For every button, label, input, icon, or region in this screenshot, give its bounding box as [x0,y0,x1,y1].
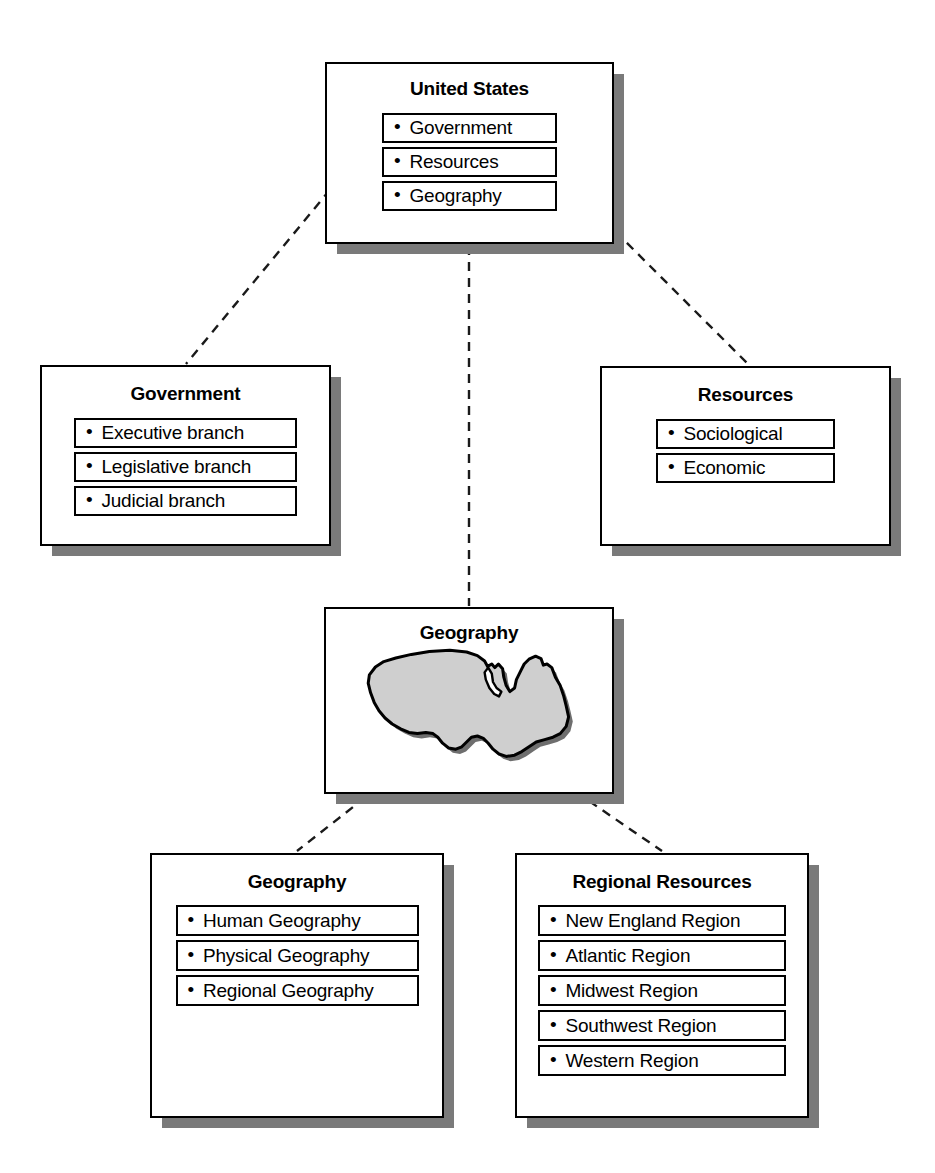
list-item[interactable]: • New England Region [538,905,786,936]
node-title-regional-resources: Regional Resources [517,872,807,893]
bullet-icon: • [188,945,194,964]
node-geography[interactable]: Geography • Human Geography • Physical G… [150,853,444,1118]
bullet-icon: • [668,457,674,476]
list-item[interactable]: • Southwest Region [538,1010,786,1041]
bullet-icon: • [550,1050,556,1069]
united-states-map-icon [349,646,589,772]
list-item-label: Atlantic Region [565,946,690,965]
node-title-united-states: United States [327,79,612,100]
node-title-resources: Resources [602,385,889,406]
list-item[interactable]: • Judicial branch [74,486,297,516]
list-item[interactable]: • Physical Geography [176,940,419,971]
list-item-label: Sociological [683,424,782,443]
list-item[interactable]: • Human Geography [176,905,419,936]
node-regional-resources[interactable]: Regional Resources • New England Region … [515,853,809,1118]
list-item-label: Judicial branch [101,491,225,510]
bullet-icon: • [550,980,556,999]
node-title-government: Government [42,384,329,405]
bullet-icon: • [550,910,556,929]
list-item[interactable]: • Midwest Region [538,975,786,1006]
list-item[interactable]: • Atlantic Region [538,940,786,971]
list-item-label: Western Region [565,1051,698,1070]
bullet-icon: • [668,423,674,442]
list-item[interactable]: • Sociological [656,419,835,449]
list-item-label: Geography [409,186,501,205]
bullet-icon: • [550,945,556,964]
list-item-label: Midwest Region [565,981,697,1000]
list-item-label: Government [409,118,512,137]
item-list-regional-resources: • New England Region • Atlantic Region •… [538,905,786,1076]
bullet-icon: • [394,185,400,204]
node-united-states[interactable]: United States • Government • Resources •… [325,62,614,244]
node-resources[interactable]: Resources • Sociological • Economic [600,366,891,546]
bullet-icon: • [550,1015,556,1034]
item-list-geography: • Human Geography • Physical Geography •… [176,905,419,1006]
list-item-label: Economic [683,458,765,477]
node-geography-map[interactable]: Geography [324,607,614,794]
list-item[interactable]: • Legislative branch [74,452,297,482]
list-item-label: Regional Geography [203,981,374,1000]
item-list-resources: • Sociological • Economic [656,419,835,483]
list-item[interactable]: • Western Region [538,1045,786,1076]
diagram-canvas: United States • Government • Resources •… [0,0,935,1173]
list-item-label: Physical Geography [203,946,369,965]
list-item-label: Southwest Region [565,1016,716,1035]
bullet-icon: • [86,456,92,475]
map-container [326,646,612,772]
node-title-geography: Geography [152,872,442,893]
node-government[interactable]: Government • Executive branch • Legislat… [40,365,331,546]
list-item[interactable]: • Geography [382,181,557,211]
list-item-label: Legislative branch [101,457,251,476]
bullet-icon: • [86,490,92,509]
bullet-icon: • [86,422,92,441]
list-item[interactable]: • Executive branch [74,418,297,448]
list-item-label: Executive branch [101,423,244,442]
list-item-label: New England Region [565,911,740,930]
list-item[interactable]: • Resources [382,147,557,177]
bullet-icon: • [188,980,194,999]
bullet-icon: • [188,910,194,929]
item-list-government: • Executive branch • Legislative branch … [74,418,297,516]
list-item-label: Human Geography [203,911,361,930]
node-title-geography-map: Geography [326,623,612,644]
list-item[interactable]: • Economic [656,453,835,483]
list-item[interactable]: • Government [382,113,557,143]
list-item[interactable]: • Regional Geography [176,975,419,1006]
list-item-label: Resources [409,152,498,171]
bullet-icon: • [394,117,400,136]
item-list-united-states: • Government • Resources • Geography [382,113,557,211]
bullet-icon: • [394,151,400,170]
